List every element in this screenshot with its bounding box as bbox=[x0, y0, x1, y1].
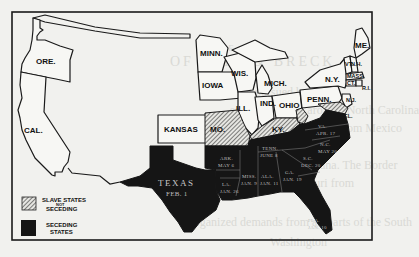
label-ala: ALA. bbox=[261, 174, 274, 179]
legend-label-seceding-line1: SECEDING bbox=[46, 222, 78, 228]
label-sc-date: DEC. 20 bbox=[301, 163, 321, 168]
label-mo: MO. bbox=[210, 125, 225, 134]
label-tenn-date: JUNE 8 bbox=[260, 153, 278, 158]
label-wis: WIS. bbox=[231, 69, 248, 78]
california bbox=[18, 72, 70, 176]
label-ct: CT. bbox=[347, 80, 356, 86]
label-ri: R.I. bbox=[362, 85, 371, 91]
label-la-date: JAN. 26 bbox=[220, 189, 239, 194]
label-iowa: IOWA bbox=[202, 81, 224, 90]
legend-label-slave-line3: SECEDING bbox=[46, 206, 78, 212]
label-nh: N.H. bbox=[351, 61, 362, 67]
label-sc: S.C. bbox=[303, 156, 313, 161]
legend-swatch-hatched bbox=[22, 197, 36, 210]
label-cal: CAL. bbox=[24, 126, 43, 135]
label-ga: GA. bbox=[285, 170, 294, 175]
label-la: LA. bbox=[222, 182, 231, 187]
label-nj: N.J. bbox=[346, 97, 357, 103]
label-texas-date: FEB. 1 bbox=[166, 190, 188, 198]
label-ind: IND. bbox=[260, 99, 276, 108]
label-ark: ARK. bbox=[220, 156, 233, 161]
label-mich: MICH. bbox=[264, 79, 287, 88]
label-ky: KY. bbox=[272, 125, 284, 134]
label-minn: MINN. bbox=[200, 49, 223, 58]
label-mass: MASS. bbox=[347, 73, 365, 79]
legend-label-seceding-line2: STATES bbox=[50, 229, 73, 235]
label-ga-date: JAN. 19 bbox=[283, 177, 302, 182]
legend-swatch-black bbox=[21, 220, 36, 236]
label-fla: FLA. bbox=[308, 218, 320, 223]
label-va: VA. bbox=[318, 124, 327, 129]
west-virginia bbox=[296, 108, 308, 124]
southern-border-line bbox=[68, 168, 120, 184]
label-va-date: APR. 17 bbox=[316, 131, 336, 136]
label-ala-date: JAN. 11 bbox=[260, 181, 279, 186]
label-nc: N.C. bbox=[320, 142, 331, 147]
label-tenn: TENN. bbox=[262, 146, 278, 151]
legend: SLAVE STATES NOT SECEDING SECEDING STATE… bbox=[21, 197, 86, 236]
label-ny: N.Y. bbox=[325, 75, 340, 84]
label-ark-date: MAY 6 bbox=[218, 163, 234, 168]
label-miss-date: JAN. 9 bbox=[241, 181, 257, 186]
label-ohio: OHIO bbox=[279, 101, 299, 110]
label-kansas: KANSAS bbox=[164, 125, 198, 134]
label-texas: TEXAS bbox=[158, 178, 195, 188]
label-fla-date: JAN. 10 bbox=[308, 225, 327, 230]
label-ore: ORE. bbox=[36, 57, 56, 66]
label-miss: MISS. bbox=[242, 174, 256, 179]
label-me: ME. bbox=[355, 41, 369, 50]
northeast-free-states: PENN. N.Y. N.J. ME. VT. N.H. MASS. CT. R… bbox=[300, 28, 371, 108]
label-nc-date: MAY 20 bbox=[318, 149, 337, 154]
oregon bbox=[21, 18, 73, 82]
